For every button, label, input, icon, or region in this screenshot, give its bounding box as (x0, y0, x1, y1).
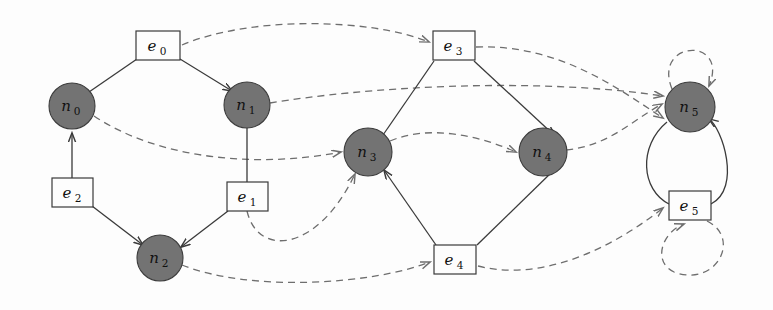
node-n2-circle[interactable] (137, 235, 183, 281)
node-n1-base: n (236, 96, 246, 114)
edge-box-e0-base: e (148, 37, 157, 55)
edge-box-e3[interactable]: e 3 (433, 31, 475, 60)
edge-box-e4-base: e (445, 251, 454, 269)
node-n5-base: n (679, 98, 689, 116)
node-n5-circle[interactable] (665, 82, 715, 132)
edge-box-e0-rect[interactable] (136, 31, 180, 60)
edge-box-e2[interactable]: e 2 (52, 178, 93, 207)
node-n5-sub: 5 (692, 106, 699, 118)
node-n0[interactable]: n 0 (49, 83, 95, 129)
edge-box-e1-base: e (238, 188, 247, 206)
edge-box-e4[interactable]: e 4 (434, 245, 476, 274)
node-n4-base: n (532, 143, 542, 161)
node-n4-sub: 4 (545, 151, 552, 163)
node-n0-base: n (61, 97, 71, 115)
edge-box-e4-rect[interactable] (434, 245, 476, 274)
edge-box-e1[interactable]: e 1 (227, 182, 268, 211)
graph-figure: n 0 n 1 n 2 n 3 n 4 n 5 (0, 0, 773, 310)
node-n1-circle[interactable] (224, 82, 270, 128)
node-n1-sub: 1 (249, 104, 256, 116)
node-n4[interactable]: n 4 (519, 128, 567, 176)
edge-box-e5-sub: 5 (692, 205, 699, 217)
edge-box-e3-rect[interactable] (433, 31, 475, 60)
node-n2[interactable]: n 2 (137, 235, 183, 281)
edge-box-e2-sub: 2 (75, 192, 82, 204)
node-n4-circle[interactable] (519, 128, 567, 176)
edge-box-e4-sub: 4 (457, 259, 464, 271)
edge-box-e2-base: e (63, 184, 72, 202)
edge-box-e1-sub: 1 (250, 196, 257, 208)
edge-box-e5[interactable]: e 5 (669, 191, 711, 220)
edge-box-e5-rect[interactable] (669, 191, 711, 220)
edge-box-e2-rect[interactable] (52, 178, 93, 207)
edge-box-e3-sub: 3 (456, 45, 463, 57)
edge-box-e0[interactable]: e 0 (136, 31, 180, 60)
node-n3-base: n (357, 143, 367, 161)
node-n0-sub: 0 (74, 105, 81, 117)
node-n2-base: n (149, 249, 159, 267)
edge-box-e5-base: e (680, 197, 689, 215)
node-n3-sub: 3 (370, 151, 377, 163)
node-n3[interactable]: n 3 (344, 128, 392, 176)
node-n3-circle[interactable] (344, 128, 392, 176)
node-n5[interactable]: n 5 (665, 82, 715, 132)
edge-box-e0-sub: 0 (160, 45, 167, 57)
node-n2-sub: 2 (162, 257, 169, 269)
node-n1[interactable]: n 1 (224, 82, 270, 128)
edge-box-e3-base: e (444, 37, 453, 55)
node-n0-circle[interactable] (49, 83, 95, 129)
edge-box-e1-rect[interactable] (227, 182, 268, 211)
